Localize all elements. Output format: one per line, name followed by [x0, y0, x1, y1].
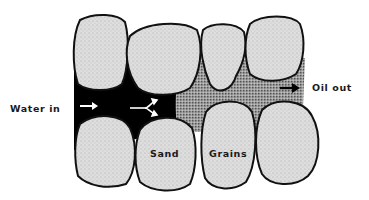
oil-out-label: Oil out [312, 82, 352, 93]
oil-displacement-diagram [0, 0, 369, 200]
grain-top-right [246, 17, 304, 81]
grain-bottom-right [256, 101, 318, 184]
sand-label: Sand [150, 148, 179, 159]
grain-top-middle [127, 24, 201, 95]
grain-bottom-grains [201, 102, 255, 189]
grain-top-left [74, 15, 128, 90]
grain-bottom-left [75, 116, 135, 187]
water-in-label: Water in [10, 103, 60, 114]
grains-label: Grains [209, 148, 247, 159]
